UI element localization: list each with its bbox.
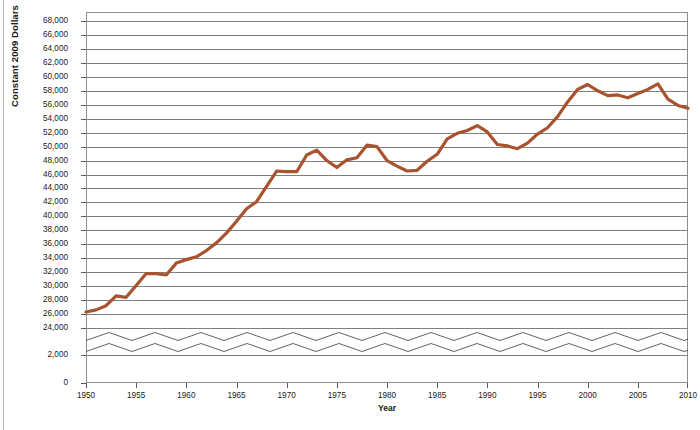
y-tick-label: 30,000	[20, 282, 68, 290]
y-tick-label: 64,000	[20, 45, 68, 53]
y-tick-label: 54,000	[20, 115, 68, 123]
x-tick-label: 1955	[116, 391, 156, 400]
y-tick-label: 36,000	[20, 240, 68, 248]
chart-plot-area: 02,00024,00026,00028,00030,00032,00034,0…	[86, 12, 688, 383]
x-tick-label: 1965	[217, 391, 257, 400]
x-tick-label: 2010	[668, 391, 700, 400]
x-tick-mark	[687, 383, 688, 388]
y-tick-label: 62,000	[20, 59, 68, 67]
x-tick-label: 1980	[367, 391, 407, 400]
y-tick-label: 26,000	[20, 310, 68, 318]
x-axis-title: Year	[86, 403, 688, 413]
x-tick-label: 1970	[267, 391, 307, 400]
x-tick-label: 2000	[568, 391, 608, 400]
y-tick-label: 52,000	[20, 129, 68, 137]
y-tick-label: 42,000	[20, 198, 68, 206]
y-tick-label: 28,000	[20, 296, 68, 304]
x-tick-mark	[487, 383, 488, 388]
x-tick-mark	[638, 383, 639, 388]
x-tick-mark	[538, 383, 539, 388]
data-line	[86, 84, 688, 312]
x-tick-mark	[588, 383, 589, 388]
x-tick-label: 1985	[417, 391, 457, 400]
y-tick-label: 46,000	[20, 171, 68, 179]
x-tick-label: 1995	[518, 391, 558, 400]
x-tick-mark	[337, 383, 338, 388]
y-tick-label: 24,000	[20, 324, 68, 332]
x-tick-mark	[186, 383, 187, 388]
y-tick-label: 44,000	[20, 184, 68, 192]
y-tick-label: 34,000	[20, 254, 68, 262]
y-tick-label: 66,000	[20, 31, 68, 39]
y-tick-label: 50,000	[20, 143, 68, 151]
data-series-layer	[86, 12, 688, 383]
x-tick-label: 2005	[618, 391, 658, 400]
x-tick-mark	[387, 383, 388, 388]
x-tick-mark	[287, 383, 288, 388]
x-tick-mark	[86, 383, 87, 388]
y-tick-label: 56,000	[20, 101, 68, 109]
x-tick-mark	[437, 383, 438, 388]
x-tick-label: 1990	[467, 391, 507, 400]
x-tick-mark	[237, 383, 238, 388]
x-tick-label: 1960	[166, 391, 206, 400]
y-tick-label: 40,000	[20, 212, 68, 220]
x-tick-label: 1950	[66, 391, 106, 400]
y-tick-label: 2,000	[20, 351, 68, 359]
y-tick-label: 32,000	[20, 268, 68, 276]
x-tick-mark	[136, 383, 137, 388]
y-tick-label: 38,000	[20, 226, 68, 234]
y-tick-label: 58,000	[20, 87, 68, 95]
chart-page: Constant 2009 Dollars 02,00024,00026,000…	[0, 0, 700, 430]
y-tick-label: 68,000	[20, 17, 68, 25]
page-edge-rule	[3, 0, 4, 430]
y-tick-label: 60,000	[20, 73, 68, 81]
x-tick-label: 1975	[317, 391, 357, 400]
y-tick-label: 0	[20, 379, 68, 387]
y-tick-label: 48,000	[20, 157, 68, 165]
